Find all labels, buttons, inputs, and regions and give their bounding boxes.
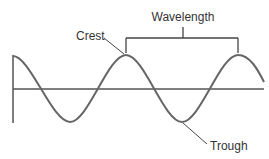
trough-leader-line — [183, 123, 207, 144]
trough-label: Trough — [210, 139, 248, 153]
wavelength-label: Wavelength — [152, 10, 215, 24]
wavelength-bracket — [126, 27, 238, 53]
wave-diagram: Wavelength Crest Trough — [0, 0, 269, 159]
crest-label: Crest — [76, 29, 105, 43]
crest-leader-line — [104, 38, 124, 54]
